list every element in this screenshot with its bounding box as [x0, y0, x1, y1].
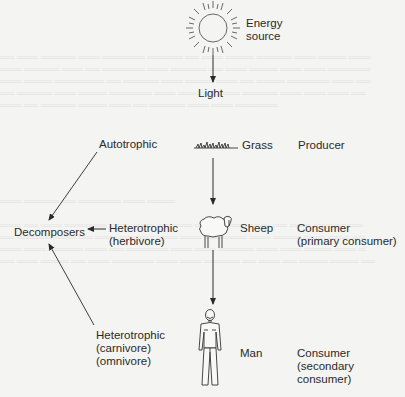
- energy-source-line1: Energy: [246, 17, 282, 29]
- carnivore-omnivore-label: Heterotrophic (carnivore) (omnivore): [96, 329, 165, 368]
- sheep-label: Sheep: [240, 222, 273, 235]
- sun-icon: [186, 1, 240, 55]
- carnivore-line3: (omnivore): [96, 355, 151, 367]
- grass-label: Grass: [242, 139, 273, 152]
- secondary-consumer-line1: Consumer: [297, 347, 350, 359]
- herbivore-line2: (herbivore): [109, 235, 165, 247]
- sheep-icon: [200, 216, 232, 248]
- secondary-consumer-line3: consumer): [297, 373, 351, 385]
- carnivore-line2: (carnivore): [96, 342, 151, 354]
- primary-consumer-label: Consumer (primary consumer): [297, 222, 397, 248]
- decomposers-label: Decomposers: [14, 226, 85, 239]
- arrow-carnivore-to-decomposers: [49, 244, 94, 325]
- herbivore-line1: Heterotrophic: [109, 222, 178, 234]
- secondary-consumer-label: Consumer (secondary consumer): [297, 347, 354, 386]
- producer-label: Producer: [298, 139, 345, 152]
- carnivore-line1: Heterotrophic: [96, 329, 165, 341]
- grass-icon: [194, 142, 238, 148]
- primary-consumer-line1: Consumer: [297, 222, 350, 234]
- energy-source-label: Energy source: [246, 17, 282, 43]
- man-icon: [199, 310, 221, 386]
- secondary-consumer-line2: (secondary: [297, 360, 354, 372]
- arrow-autotrophic-to-decomposers: [49, 152, 97, 220]
- primary-consumer-line2: (primary consumer): [297, 235, 397, 247]
- autotrophic-label: Autotrophic: [99, 138, 157, 151]
- energy-source-line2: source: [246, 30, 281, 42]
- man-label: Man: [240, 347, 262, 360]
- light-label: Light: [198, 87, 223, 100]
- herbivore-label: Heterotrophic (herbivore): [109, 222, 178, 248]
- diagram-graphics: [0, 0, 405, 397]
